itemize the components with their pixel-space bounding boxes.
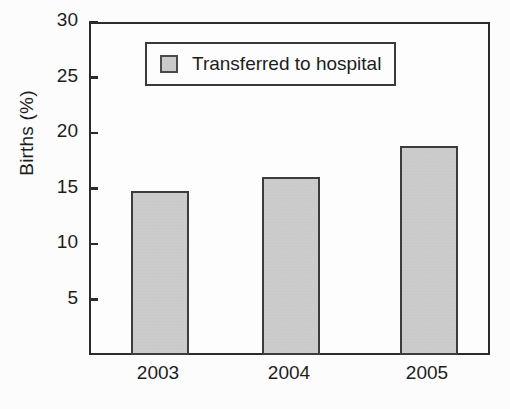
y-tick-mark [89,298,98,301]
y-tick-label: 15 [34,176,78,198]
y-tick-mark [89,243,98,246]
bar-2003 [131,191,189,356]
bar-chart-figure: Births (%) 30252015105 200320042005 Tran… [0,0,510,409]
legend-box: Transferred to hospital [145,42,396,86]
y-tick-label: 10 [34,231,78,253]
y-tick-label: 20 [34,120,78,142]
y-tick-label: 30 [34,9,78,31]
legend-swatch-icon [160,55,178,73]
x-tick-label-2005: 2005 [372,362,482,384]
x-tick-label-2003: 2003 [103,362,213,384]
y-tick-mark [89,21,98,24]
y-tick-mark [89,187,98,190]
x-tick-label-2004: 2004 [234,362,344,384]
y-tick-mark [89,132,98,135]
legend-label: Transferred to hospital [192,53,381,75]
y-tick-label: 25 [34,65,78,87]
bar-2005 [400,146,458,355]
bar-2004 [262,177,320,355]
y-tick-label: 5 [34,287,78,309]
y-tick-mark [89,76,98,79]
